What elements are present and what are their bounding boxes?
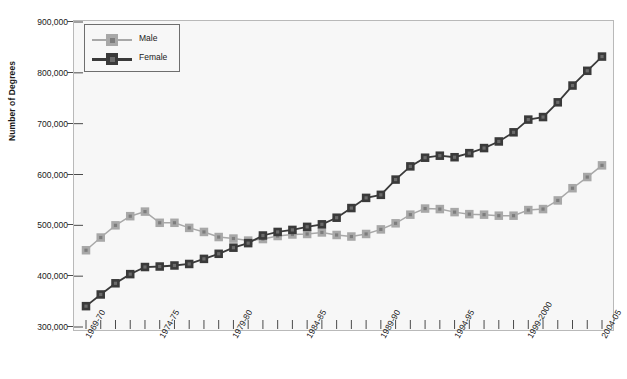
data-point-marker-center <box>173 221 176 224</box>
data-point-marker-center <box>379 193 382 196</box>
data-point-marker-center <box>99 236 102 239</box>
data-point-marker-center <box>291 228 294 231</box>
data-point-marker-center <box>335 233 338 236</box>
y-axis-tick-label: 900,000 <box>10 17 68 27</box>
y-axis-outer-tick <box>67 123 73 124</box>
data-point-marker-center <box>600 164 603 167</box>
data-point-marker-center <box>335 216 338 219</box>
data-point-marker-center <box>482 146 485 149</box>
data-point-marker-center <box>247 242 250 245</box>
y-axis-outer-tick <box>67 326 73 327</box>
data-point-marker-center <box>306 225 309 228</box>
data-point-marker-center <box>586 69 589 72</box>
data-point-marker-center <box>158 265 161 268</box>
data-point-marker-center <box>586 175 589 178</box>
data-point-marker-center <box>468 152 471 155</box>
data-point-marker-center <box>261 234 264 237</box>
legend-marker-female <box>106 53 118 65</box>
data-point-marker-center <box>365 196 368 199</box>
data-point-marker-center <box>527 208 530 211</box>
data-point-marker-center <box>394 222 397 225</box>
data-point-marker-center <box>217 235 220 238</box>
data-point-marker-center <box>84 305 87 308</box>
data-point-marker-center <box>365 232 368 235</box>
data-point-marker-center <box>438 154 441 157</box>
legend-label-female: Female <box>139 52 167 62</box>
y-axis-outer-tick <box>67 174 73 175</box>
chart-legend: Male Female <box>84 24 180 72</box>
data-point-marker-center <box>114 282 117 285</box>
series-male <box>82 161 607 254</box>
y-axis-tick-label: 800,000 <box>10 68 68 78</box>
series-female <box>82 52 607 310</box>
data-point-marker-center <box>556 199 559 202</box>
data-point-marker-center <box>143 210 146 213</box>
data-point-marker-center <box>600 55 603 58</box>
data-point-marker-center <box>423 156 426 159</box>
data-point-marker-center <box>173 264 176 267</box>
data-point-marker-center <box>202 230 205 233</box>
y-axis-outer-tick <box>67 224 73 225</box>
data-point-marker-center <box>468 213 471 216</box>
data-point-marker-center <box>320 231 323 234</box>
y-axis-tick-labels: 300,000400,000500,000600,000700,000800,0… <box>8 20 68 331</box>
data-point-marker-center <box>232 237 235 240</box>
data-point-marker-center <box>350 206 353 209</box>
data-point-marker-center <box>114 224 117 227</box>
data-point-marker-center <box>276 230 279 233</box>
data-point-marker-center <box>84 249 87 252</box>
data-point-marker-center <box>556 101 559 104</box>
y-axis-outer-tick <box>67 275 73 276</box>
data-point-marker-center <box>394 178 397 181</box>
data-point-marker-center <box>512 131 515 134</box>
data-point-marker-center <box>482 213 485 216</box>
data-point-marker-center <box>453 211 456 214</box>
data-point-marker-center <box>497 140 500 143</box>
data-point-marker-center <box>409 165 412 168</box>
data-point-marker-center <box>306 232 309 235</box>
y-axis-tick-label: 600,000 <box>10 170 68 180</box>
data-point-marker-center <box>143 265 146 268</box>
y-axis-outer-tick <box>67 72 73 73</box>
legend-label-male: Male <box>139 33 157 43</box>
chart-page: Number of Degrees 300,000400,000500,0006… <box>0 0 627 379</box>
legend-marker-male <box>106 34 118 46</box>
data-point-marker-center <box>188 262 191 265</box>
y-axis-tick-label: 700,000 <box>10 119 68 129</box>
legend-item-male: Male <box>85 31 181 49</box>
data-point-marker-center <box>99 293 102 296</box>
data-point-marker-center <box>571 84 574 87</box>
data-point-marker-center <box>379 228 382 231</box>
y-axis-outer-tick <box>67 21 73 22</box>
legend-item-female: Female <box>85 50 181 68</box>
data-point-marker-center <box>188 226 191 229</box>
data-point-marker-center <box>320 223 323 226</box>
data-point-marker-center <box>438 207 441 210</box>
data-point-marker-center <box>527 118 530 121</box>
data-point-marker-center <box>571 187 574 190</box>
data-point-marker-center <box>423 207 426 210</box>
y-axis-tick-label: 300,000 <box>10 322 68 332</box>
y-axis-tick-label: 500,000 <box>10 220 68 230</box>
data-point-marker-center <box>497 214 500 217</box>
data-point-marker-center <box>158 221 161 224</box>
data-point-marker-center <box>129 273 132 276</box>
data-point-marker-center <box>129 215 132 218</box>
y-axis-tick-label: 400,000 <box>10 271 68 281</box>
data-point-marker-center <box>350 235 353 238</box>
data-point-marker-center <box>541 207 544 210</box>
data-point-marker-center <box>232 246 235 249</box>
data-point-marker-center <box>512 214 515 217</box>
data-point-marker-center <box>541 115 544 118</box>
data-point-marker-center <box>453 156 456 159</box>
data-point-marker-center <box>202 257 205 260</box>
data-point-marker-center <box>217 252 220 255</box>
data-point-marker-center <box>409 213 412 216</box>
